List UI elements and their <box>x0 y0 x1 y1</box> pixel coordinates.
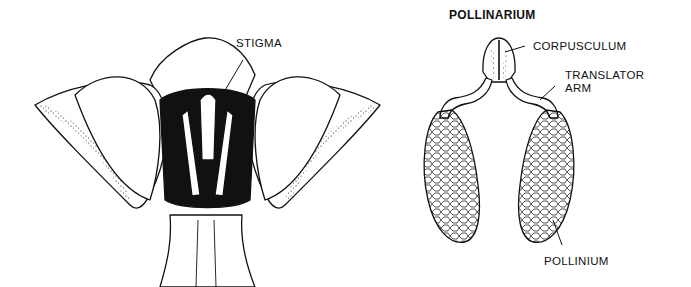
pollinarium-illustration <box>424 38 574 245</box>
stigma-head <box>200 94 216 160</box>
pollinium-left <box>424 110 479 242</box>
pollinium-right <box>519 110 574 242</box>
label-pollinium: POLLINIUM <box>544 255 609 267</box>
label-stigma: STIGMA <box>236 37 282 49</box>
flower-stem <box>160 215 255 287</box>
pollinarium-title: POLLINARIUM <box>449 9 536 21</box>
label-translator-arm-line1: TRANSLATOR <box>565 69 644 81</box>
label-translator-arm-line2: ARM <box>565 82 591 94</box>
flower-illustration <box>35 38 380 287</box>
label-corpusculum: CORPUSCULUM <box>533 40 626 52</box>
